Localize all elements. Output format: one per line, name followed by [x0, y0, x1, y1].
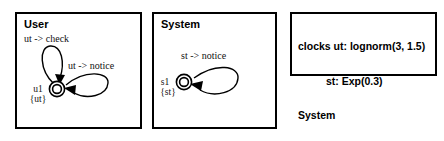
state-s1-inner-circle	[180, 78, 189, 87]
state-s1-name: s1	[154, 77, 176, 87]
state-s1-clock-set: {st}	[152, 87, 184, 97]
diagram-canvas: User ut -> check ut -> notice u1 {ut} Sy…	[0, 0, 444, 141]
spec-line-clocks-st: st: Exp(0.3)	[298, 76, 425, 88]
state-u1-clock-set: {ut}	[21, 94, 55, 104]
panel-spec: clocks ut: lognorm(3, 1.5) st: Exp(0.3) …	[290, 12, 437, 76]
spec-line-clocks-ut: clocks ut: lognorm(3, 1.5)	[298, 41, 425, 53]
spec-text-block: clocks ut: lognorm(3, 1.5) st: Exp(0.3) …	[298, 18, 425, 141]
user-automaton-graph	[17, 14, 144, 131]
state-u1-inner-circle	[53, 85, 62, 94]
panel-system: System st -> notice s1 {st}	[152, 12, 277, 129]
panel-user: User ut -> check ut -> notice u1 {ut}	[15, 12, 142, 129]
spec-line-system: System	[298, 110, 425, 122]
system-automaton-graph	[154, 14, 279, 131]
arrowhead-notice	[64, 85, 76, 95]
state-u1-name: u1	[25, 84, 51, 94]
